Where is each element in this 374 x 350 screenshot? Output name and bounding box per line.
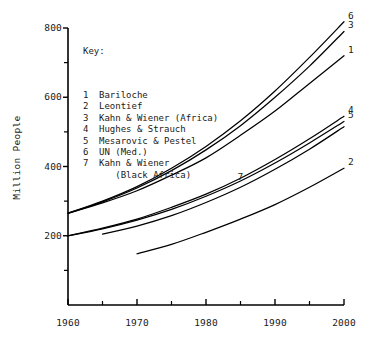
legend-item-number: 4 <box>83 124 99 135</box>
legend-item-number: 3 <box>83 113 99 124</box>
curve-label-1: 1 <box>348 44 354 55</box>
y-tick-label: 600 <box>28 91 62 102</box>
curve-label-2: 2 <box>348 156 354 167</box>
legend-item: 3Kahn & Wiener (Africa) <box>83 113 218 124</box>
legend-item-number: 5 <box>83 136 99 147</box>
y-axis-title: Million People <box>11 111 22 205</box>
legend-item-label: Kahn & Wiener <box>99 158 169 169</box>
x-tick-label: 1990 <box>260 317 290 328</box>
legend-item: 2Leontief <box>83 101 218 112</box>
y-tick-label: 800 <box>28 22 62 33</box>
legend-item-label: Bariloche <box>99 90 148 101</box>
legend-item-number: 2 <box>83 101 99 112</box>
legend-item-label: Kahn & Wiener (Africa) <box>99 113 218 124</box>
legend-item-number: 7 <box>83 158 99 169</box>
x-tick-label: 1960 <box>53 317 83 328</box>
legend-item-label: Mesarovic & Pestel <box>99 136 197 147</box>
legend-item: 1Bariloche <box>83 90 218 101</box>
legend-item-label-continued: (Black Africa) <box>83 170 218 181</box>
x-tick-label: 2000 <box>329 317 359 328</box>
curve-label-7: 7 <box>238 171 244 182</box>
curve-label-5: 5 <box>348 109 354 120</box>
legend-item-label: UN (Med.) <box>99 147 148 158</box>
legend-item-label: Leontief <box>99 101 142 112</box>
y-tick-label: 200 <box>28 230 62 241</box>
legend-item: 6UN (Med.) <box>83 147 218 158</box>
legend-key: Key: 1Bariloche2Leontief3Kahn & Wiener (… <box>83 23 218 204</box>
y-tick-label: 400 <box>28 161 62 172</box>
x-tick-label: 1970 <box>122 317 152 328</box>
legend-item: 5Mesarovic & Pestel <box>83 136 218 147</box>
legend-items: 1Bariloche2Leontief3Kahn & Wiener (Afric… <box>83 90 218 181</box>
legend-item: 7Kahn & Wiener <box>83 158 218 169</box>
legend-item: 4Hughes & Strauch <box>83 124 218 135</box>
legend-title: Key: <box>83 46 218 57</box>
curve-label-3: 3 <box>348 19 354 30</box>
chart-figure: Million People 800600400200 196019701980… <box>0 0 374 350</box>
x-tick-label: 1980 <box>191 317 221 328</box>
legend-item-number: 1 <box>83 90 99 101</box>
legend-item-number: 6 <box>83 147 99 158</box>
legend-item-label: Hughes & Strauch <box>99 124 186 135</box>
